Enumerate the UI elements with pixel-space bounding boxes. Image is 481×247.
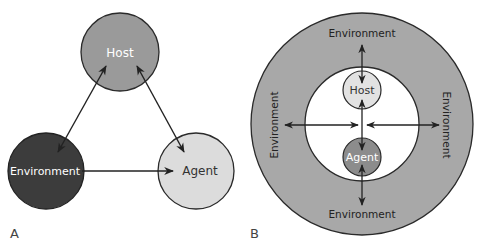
host-label-a: Host	[106, 46, 134, 60]
ring-label-bottom: Environment	[328, 208, 395, 220]
panel-b: Host Agent Environment Environment Envir…	[250, 13, 473, 241]
ring-label-left: Environment	[268, 91, 280, 158]
host-label-b: Host	[349, 84, 375, 97]
environment-label-a: Environment	[10, 165, 81, 178]
agent-label-a: Agent	[182, 164, 218, 178]
diagram-canvas: Host Environment Agent A Host Agent Envi…	[0, 0, 481, 247]
edge-host-agent	[137, 66, 184, 152]
panel-a: Host Environment Agent A	[8, 13, 234, 241]
panel-b-letter: B	[250, 226, 259, 241]
edge-host-environment	[58, 66, 106, 152]
ring-label-top: Environment	[328, 27, 395, 39]
ring-label-right: Environment	[441, 91, 453, 158]
panel-a-letter: A	[10, 226, 19, 241]
agent-label-b: Agent	[346, 151, 379, 164]
